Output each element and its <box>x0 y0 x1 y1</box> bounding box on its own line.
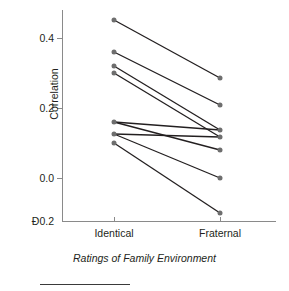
data-point <box>218 135 223 140</box>
line-pair-3 <box>114 66 220 130</box>
data-point <box>218 211 223 216</box>
data-point <box>112 50 117 55</box>
data-point <box>218 148 223 153</box>
data-point <box>112 132 117 137</box>
figure-panel: 0.4 0.2 0.0 Ð0.2 Identical Fraternal Cor… <box>0 0 289 291</box>
line-pair-4 <box>114 73 220 137</box>
data-point <box>112 71 117 76</box>
line-pair-7 <box>114 143 220 213</box>
data-point <box>112 18 117 23</box>
data-layer <box>62 10 276 222</box>
y-tick-label-0-0: 0.0 <box>39 173 54 184</box>
x-axis-title: Ratings of Family Environment <box>0 252 289 264</box>
x-tick-labels: Identical Fraternal <box>62 227 276 241</box>
y-axis-title: Correlation <box>48 34 60 154</box>
data-point <box>218 76 223 81</box>
data-point <box>112 64 117 69</box>
line-pair-2 <box>114 52 220 105</box>
data-point <box>112 141 117 146</box>
data-point <box>218 103 223 108</box>
footer-rule <box>40 284 130 285</box>
y-tick-labels: 0.4 0.2 0.0 Ð0.2 <box>0 10 54 222</box>
plot-area <box>62 10 276 222</box>
y-tick-label-neg-0-2: Ð0.2 <box>32 216 54 227</box>
x-tick-label-identical: Identical <box>94 227 133 239</box>
line-pair-9 <box>114 134 220 178</box>
x-tick-label-fraternal: Fraternal <box>199 227 241 239</box>
data-point <box>218 176 223 181</box>
data-point <box>218 128 223 133</box>
line-pair-1 <box>114 20 220 78</box>
connector-lines <box>62 10 276 222</box>
data-point <box>112 120 117 125</box>
